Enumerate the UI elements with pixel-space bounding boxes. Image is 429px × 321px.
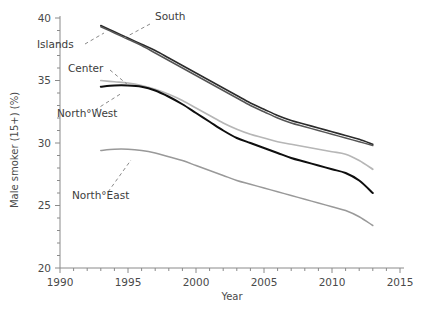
x-tick-label: 2015 — [387, 276, 414, 288]
x-axis-title: Year — [220, 291, 243, 302]
x-tick-label: 2010 — [319, 276, 346, 288]
y-tick-label: 40 — [38, 12, 51, 24]
series-line-north-west — [101, 85, 373, 193]
leader-line — [108, 160, 131, 192]
leader-line — [85, 33, 104, 44]
y-tick-label: 35 — [38, 74, 51, 86]
y-tick-label: 30 — [38, 137, 51, 149]
x-axis: 199019952000200520102015 — [47, 268, 414, 288]
series-line-north-east — [101, 149, 373, 225]
leader-line — [124, 24, 150, 38]
series-label-north-east: North°East — [72, 189, 129, 201]
x-tick-label: 2005 — [251, 276, 278, 288]
series-label-north-west: North°West — [57, 107, 117, 119]
x-tick-label: 1990 — [47, 276, 74, 288]
y-tick-label: 20 — [38, 262, 51, 274]
chart-container: 2025303540 199019952000200520102015 Sout… — [0, 0, 429, 321]
series-label-south: South — [155, 10, 186, 22]
line-chart: 2025303540 199019952000200520102015 Sout… — [0, 0, 429, 321]
x-tick-label: 1995 — [115, 276, 142, 288]
y-axis-title: Male smoker (15+) (%) — [9, 92, 20, 208]
series-label-islands: Islands — [37, 38, 74, 50]
y-axis: 2025303540 — [38, 12, 60, 274]
x-tick-label: 2000 — [183, 276, 210, 288]
series-label-center: Center — [68, 62, 104, 74]
y-tick-label: 25 — [38, 199, 51, 211]
series-lines — [101, 26, 373, 226]
series-line-center — [101, 81, 373, 170]
